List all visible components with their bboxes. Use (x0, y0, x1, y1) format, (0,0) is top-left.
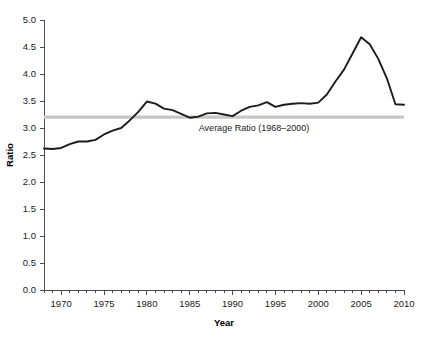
chart-container: 0.00.51.01.52.02.53.03.54.04.55.0 197019… (0, 0, 423, 338)
average-ratio-annotation: Average Ratio (1968–2000) (199, 123, 309, 133)
x-tick-label: 1985 (179, 298, 200, 309)
y-tick-label: 4.0 (23, 68, 36, 79)
x-axis-title: Year (214, 317, 234, 328)
y-tick-label: 2.0 (23, 176, 36, 187)
x-tick-label: 1970 (51, 298, 72, 309)
x-axis-tick-labels: 197019751980198519901995200020052010 (51, 298, 415, 309)
x-tick-label: 2000 (308, 298, 329, 309)
x-tick-label: 1995 (265, 298, 286, 309)
axes-group (44, 20, 404, 290)
y-tick-label: 2.5 (23, 149, 36, 160)
y-tick-label: 3.0 (23, 122, 36, 133)
ratio-line-chart: 0.00.51.01.52.02.53.03.54.04.55.0 197019… (0, 0, 423, 338)
y-axis-title: Ratio (4, 143, 15, 167)
x-tick-label: 1980 (136, 298, 157, 309)
y-tick-label: 0.0 (23, 284, 36, 295)
x-tick-label: 1990 (222, 298, 243, 309)
y-tick-label: 4.5 (23, 41, 36, 52)
y-tick-label: 1.0 (23, 230, 36, 241)
y-tick-label: 3.5 (23, 95, 36, 106)
x-tick-label: 2010 (393, 298, 414, 309)
x-tick-label: 2005 (351, 298, 372, 309)
y-tick-label: 1.5 (23, 203, 36, 214)
y-tick-label: 5.0 (23, 14, 36, 25)
y-tick-label: 0.5 (23, 257, 36, 268)
y-axis-tick-labels: 0.00.51.01.52.02.53.03.54.04.55.0 (23, 14, 36, 295)
x-tick-label: 1975 (93, 298, 114, 309)
